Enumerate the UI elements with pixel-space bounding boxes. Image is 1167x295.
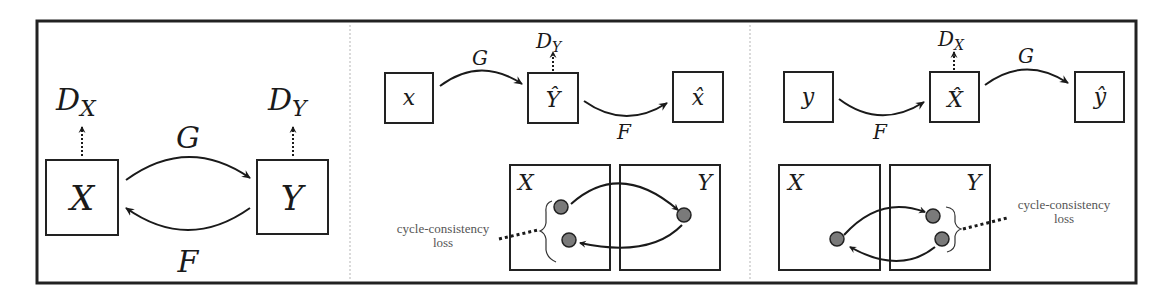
loss-label-line1: cycle-consistency bbox=[397, 221, 490, 236]
loss-label-line1-3: cycle-consistency bbox=[1018, 197, 1111, 212]
discriminator-dx-label: DX bbox=[55, 82, 97, 121]
discriminator-dy-label-2: DY bbox=[535, 29, 563, 55]
domain-x-label-3: X bbox=[786, 170, 805, 195]
chain-g-label: G bbox=[472, 46, 488, 70]
dx-sub: X bbox=[78, 96, 97, 121]
discriminator-dy-label: DY bbox=[267, 82, 309, 121]
sample-y-hat-3 bbox=[830, 232, 844, 246]
panel-backward-cycle: y X̂ ŷ DX F G X Y cycle-consist bbox=[779, 27, 1124, 270]
dy-sub: Y bbox=[292, 96, 309, 121]
domain-x-label-2: X bbox=[516, 170, 535, 195]
chain-x-hat-label: x̂ bbox=[692, 85, 705, 110]
dx3-sub: X bbox=[953, 37, 965, 53]
sample-y bbox=[926, 209, 940, 223]
cycle-backward-arrow bbox=[580, 225, 682, 248]
sample-x bbox=[554, 200, 568, 214]
loss-brace-3 bbox=[946, 207, 961, 252]
domain-x-label: X bbox=[67, 178, 96, 218]
chain-f-arrow-3 bbox=[839, 99, 924, 115]
sample-y-hat bbox=[677, 208, 691, 222]
chain-y-label: y bbox=[801, 84, 815, 109]
loss-brace bbox=[540, 201, 556, 262]
dx3-main: D bbox=[937, 27, 954, 51]
cyclegan-diagram: DX DY X Y G F x Ŷ x̂ DY bbox=[0, 0, 1167, 295]
chain-x-hat-label-2: X̂ bbox=[945, 87, 964, 112]
dy-main: D bbox=[267, 82, 292, 117]
domain-y-label: Y bbox=[281, 178, 307, 218]
chain-f-label-3: F bbox=[872, 120, 888, 144]
chain-f-label: F bbox=[616, 120, 632, 144]
cycle-forward-arrow bbox=[571, 183, 678, 210]
domain-y-label-2: Y bbox=[697, 170, 714, 195]
mapping-f-label: F bbox=[177, 244, 200, 279]
domain-y-label-3: Y bbox=[966, 170, 983, 195]
cycle-forward-arrow-3 bbox=[844, 207, 925, 235]
dy2-sub: Y bbox=[552, 39, 563, 55]
chain-x-label: x bbox=[403, 85, 416, 110]
cycle-backward-arrow-3 bbox=[850, 247, 935, 261]
sample-x-reconstructed bbox=[562, 233, 576, 247]
chain-g-arrow-3 bbox=[985, 69, 1068, 85]
loss-dotted-line-3 bbox=[963, 218, 1007, 229]
loss-label-line2: loss bbox=[433, 235, 453, 250]
chain-g-label-3: G bbox=[1018, 44, 1034, 68]
chain-y-hat-label: Ŷ bbox=[546, 86, 563, 112]
mapping-g-arrow bbox=[126, 157, 250, 180]
chain-f-arrow bbox=[584, 101, 667, 116]
mapping-g-label: G bbox=[176, 120, 200, 155]
sample-y-reconstructed bbox=[935, 232, 949, 246]
panel-forward-cycle: x Ŷ x̂ DY G F X Y cycle-consist bbox=[385, 29, 723, 270]
mapping-f-arrow bbox=[126, 208, 250, 230]
loss-dotted-line bbox=[499, 230, 538, 239]
chain-g-arrow bbox=[440, 70, 522, 86]
chain-y-hat-label-2: ŷ bbox=[1093, 84, 1107, 109]
discriminator-dx-label-3: DX bbox=[937, 27, 965, 53]
dx-main: D bbox=[55, 82, 80, 117]
dy2-main: D bbox=[535, 29, 552, 53]
panel-overview: DX DY X Y G F bbox=[46, 82, 328, 279]
loss-label-line2-3: loss bbox=[1054, 211, 1074, 226]
